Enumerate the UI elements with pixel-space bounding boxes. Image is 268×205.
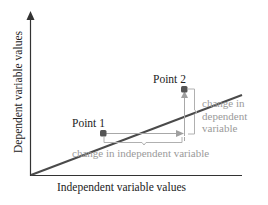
y-axis-title: Dependent variable values bbox=[13, 31, 25, 153]
x-axis-title: Independent variable values bbox=[57, 182, 186, 194]
y-axis bbox=[27, 11, 35, 176]
change-independent-label: change in independent variable bbox=[72, 148, 209, 159]
point-1-label: Point 1 bbox=[72, 118, 105, 130]
arrow-right-icon bbox=[176, 130, 184, 137]
point-1-marker bbox=[100, 130, 107, 137]
change-dependent-line-2: dependent bbox=[202, 110, 247, 123]
change-dependent-line-3: variable bbox=[202, 122, 247, 135]
point-2-marker bbox=[181, 86, 188, 93]
change-dependent-line-1: change in bbox=[202, 97, 247, 110]
y-axis-arrow-icon bbox=[27, 11, 35, 20]
point-2-label: Point 2 bbox=[153, 74, 186, 86]
vertical-brace bbox=[188, 89, 197, 134]
change-dependent-label: change in dependent variable bbox=[202, 97, 247, 135]
